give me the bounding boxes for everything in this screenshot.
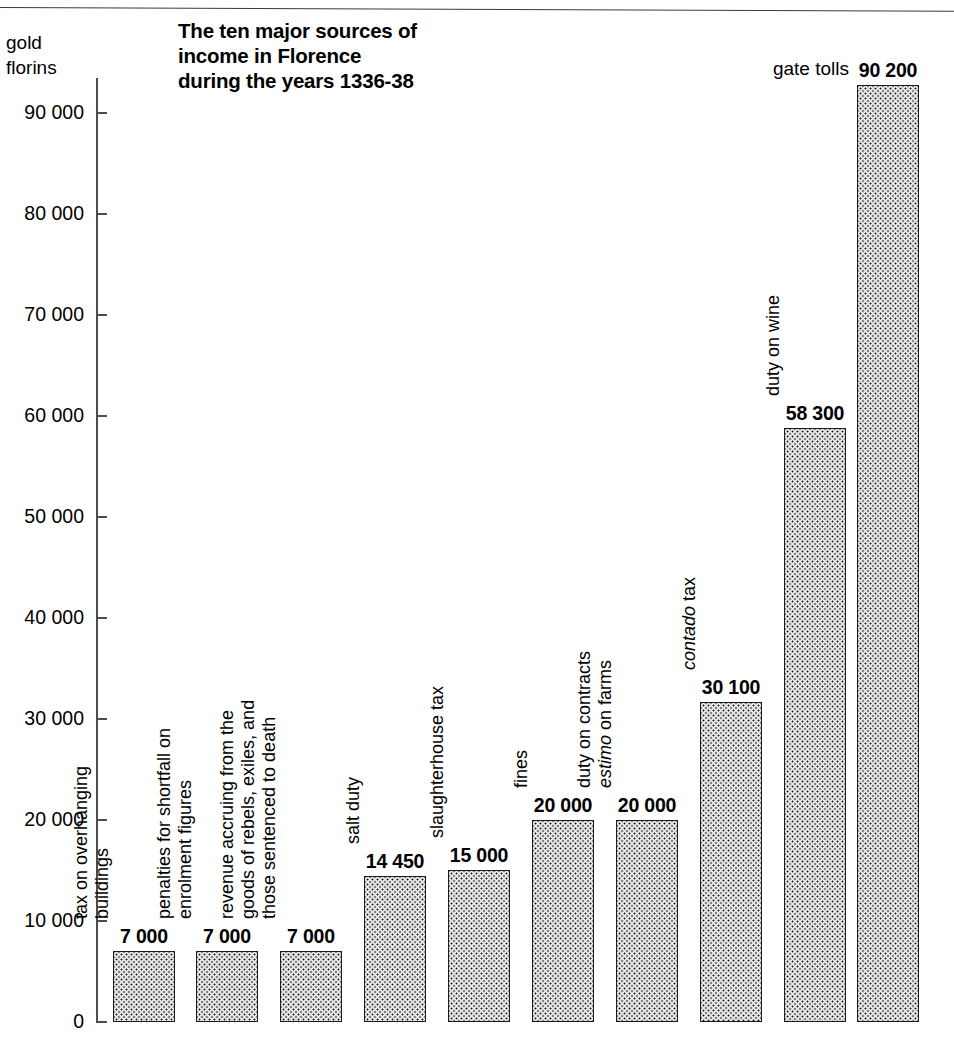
bar-rect[interactable] (280, 951, 342, 1022)
bar-value-label: 30 100 (690, 678, 772, 698)
bar-label-line-2: estimo on farms (595, 726, 616, 788)
bar-value-label: 15 000 (438, 846, 520, 866)
bar-label-line-1: duty on contracts (574, 651, 594, 788)
bar-category-label: duty on wine (784, 375, 846, 396)
bar-category-label: revenue accruing from the goods of rebel… (280, 856, 342, 919)
bar-group-8: 30 100 contado tax (700, 702, 762, 1022)
bar-group-10: 90 200 gate tolls (857, 85, 919, 1022)
bar-rect[interactable] (113, 951, 175, 1022)
bar-category-label: slaughterhouse tax (448, 817, 510, 838)
bar-label-line-2: buildings (92, 857, 113, 919)
bar-value-label: 7 000 (186, 927, 268, 947)
bar-value-label: 20 000 (606, 796, 688, 816)
bar-label-line-2: goods of rebels, exiles, and (238, 857, 259, 919)
bar-label-line-2-rest: on farms (595, 660, 615, 735)
bar-label-line-1: salt duty (343, 777, 363, 844)
bar-rect[interactable] (196, 951, 258, 1022)
bar-rect[interactable] (532, 820, 594, 1022)
bar-group-4: 14 450 salt duty (364, 876, 426, 1022)
bar-rect[interactable] (364, 876, 426, 1022)
bar-category-label: contado tax (700, 649, 762, 670)
bar-label-line-1: fines (511, 750, 531, 788)
bar-category-label: duty on contracts estimo on farms (616, 746, 678, 788)
bar-value-label: 90 200 (847, 61, 929, 81)
bar-value-label: 20 000 (522, 796, 604, 816)
bar-group-2: 7 000 penalties for shortfall on enrolme… (196, 951, 258, 1022)
bar-label-line-1: revenue accruing from the (217, 710, 237, 919)
bar-category-label: gate tolls (659, 59, 849, 78)
bar-rect[interactable] (448, 870, 510, 1022)
bar-label-line-1: tax on overhanging (71, 766, 91, 919)
bar-rect[interactable] (784, 428, 846, 1022)
bar-label-italic-term: estimo (595, 735, 615, 788)
bar-group-1: 7 000 tax on overhanging buildings (113, 951, 175, 1022)
bar-label-rest: tax (679, 577, 699, 606)
bar-label-italic-term: contado (679, 606, 699, 670)
bar-value-label: 58 300 (774, 404, 856, 424)
bar-rect[interactable] (857, 85, 919, 1022)
bar-label-line-2: enrolment figures (175, 857, 196, 919)
bar-rect[interactable] (616, 820, 678, 1022)
bar-group-5: 15 000 slaughterhouse tax (448, 870, 510, 1022)
bar-label-line-1: duty on wine (763, 295, 783, 396)
bar-group-6: 20 000 fines (532, 820, 594, 1022)
bar-group-7: 20 000 duty on contracts estimo on farms (616, 820, 678, 1022)
bar-chart-figure: gold florins The ten major sources of in… (0, 0, 954, 1044)
bar-label-line-1: penalties for shortfall on (154, 728, 174, 919)
bar-label-line-1: slaughterhouse tax (427, 686, 447, 838)
bar-value-label: 7 000 (270, 927, 352, 947)
bar-label-line-3: those sentenced to death (259, 857, 280, 919)
bar-group-3: 7 000 revenue accruing from the goods of… (280, 951, 342, 1022)
bar-value-label: 7 000 (103, 927, 185, 947)
bars-layer: 7 000 tax on overhanging buildings 7 000… (0, 0, 954, 1044)
bar-rect[interactable] (700, 702, 762, 1022)
bar-value-label: 14 450 (354, 852, 436, 872)
bar-category-label: salt duty (364, 823, 426, 844)
bar-group-9: 58 300 duty on wine (784, 428, 846, 1022)
